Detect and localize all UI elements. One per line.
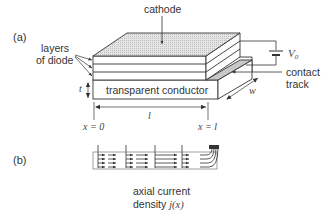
x0-label: x = 0 [82,121,104,132]
layers-arrows [75,55,92,76]
panel-a-label: (a) [13,31,26,43]
width-label: w [249,85,256,96]
conductor-label: transparent conductor [106,84,209,96]
voltage-label: V0 [288,47,299,61]
layers-label-line2: of diode [36,54,74,66]
caption-line1: axial current [133,185,190,197]
panel-b-label: (b) [13,154,26,166]
diode-figure: (a) [0,0,330,221]
contact-label-line2: track [286,78,310,90]
layers-label-line1: layers [41,42,69,54]
current-density-diagram [93,145,219,169]
contact-label-line1: contact [286,66,320,78]
xl-label: x = l [197,121,217,132]
length-label: l [148,110,151,121]
cathode-label: cathode [144,3,182,15]
caption-line2: density j(x) [133,198,184,211]
thickness-label: t [79,83,82,94]
